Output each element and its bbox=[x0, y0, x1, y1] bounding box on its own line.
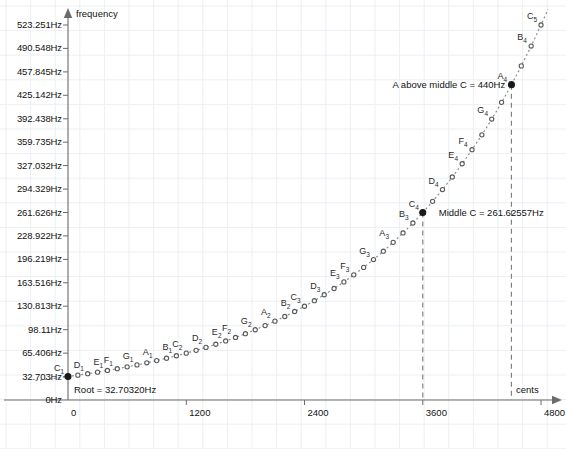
data-point[interactable] bbox=[480, 133, 484, 137]
data-point[interactable] bbox=[470, 148, 474, 152]
note-label: G4 bbox=[477, 105, 488, 117]
data-point[interactable] bbox=[283, 314, 287, 318]
data-point[interactable] bbox=[135, 363, 139, 367]
data-point[interactable] bbox=[490, 117, 494, 121]
data-point[interactable] bbox=[253, 328, 257, 332]
note-label: F4 bbox=[458, 136, 467, 148]
x-axis-tick-label: 3600 bbox=[426, 407, 447, 418]
note-label: C1 bbox=[54, 363, 64, 375]
data-point[interactable] bbox=[145, 361, 149, 365]
y-axis-tick-label: 490.548Hz bbox=[0, 42, 62, 53]
data-point[interactable] bbox=[312, 299, 316, 303]
frequency-cents-plot bbox=[0, 0, 566, 449]
x-axis-tick-label: 4800 bbox=[544, 407, 565, 418]
data-point[interactable] bbox=[440, 187, 444, 191]
data-point-highlighted[interactable] bbox=[420, 210, 426, 216]
data-point[interactable] bbox=[273, 319, 277, 323]
note-label: D2 bbox=[192, 333, 202, 345]
note-label: E4 bbox=[448, 150, 458, 162]
data-point[interactable] bbox=[115, 367, 119, 371]
y-axis-tick-label: 98.11Hz bbox=[0, 324, 62, 335]
data-point[interactable] bbox=[529, 44, 533, 48]
y-axis-tick-label: 196.219Hz bbox=[0, 253, 62, 264]
x-axis-arrow bbox=[552, 396, 562, 404]
note-label: D3 bbox=[310, 281, 320, 293]
data-point[interactable] bbox=[322, 293, 326, 297]
note-label: A1 bbox=[143, 347, 153, 359]
data-point[interactable] bbox=[450, 175, 454, 179]
data-point[interactable] bbox=[539, 23, 543, 27]
data-point[interactable] bbox=[342, 280, 346, 284]
note-label: D1 bbox=[74, 360, 84, 372]
data-point[interactable] bbox=[519, 64, 523, 68]
note-label: A3 bbox=[379, 228, 389, 240]
y-axis-tick-label: 228.922Hz bbox=[0, 230, 62, 241]
note-label: B3 bbox=[399, 209, 409, 221]
note-label: B2 bbox=[281, 298, 291, 310]
data-point[interactable] bbox=[184, 351, 188, 355]
data-point[interactable] bbox=[411, 221, 415, 225]
y-axis-tick-label: 457.845Hz bbox=[0, 66, 62, 77]
y-axis-tick-label: 392.438Hz bbox=[0, 113, 62, 124]
data-point[interactable] bbox=[460, 162, 464, 166]
data-point[interactable] bbox=[194, 348, 198, 352]
data-point[interactable] bbox=[362, 265, 366, 269]
y-axis-arrow bbox=[64, 8, 72, 18]
root-annotation: Root = 32.70320Hz bbox=[74, 384, 156, 395]
y-axis-tick-label: 261.626Hz bbox=[0, 207, 62, 218]
grid-group bbox=[0, 0, 566, 449]
note-label: F1 bbox=[104, 355, 113, 367]
data-point[interactable] bbox=[155, 358, 159, 362]
note-label: E1 bbox=[94, 357, 104, 369]
note-label: E2 bbox=[212, 327, 222, 339]
y-axis-tick-label: 65.406Hz bbox=[0, 347, 62, 358]
data-point[interactable] bbox=[95, 370, 99, 374]
data-point[interactable] bbox=[233, 335, 237, 339]
x-axis-title: cents bbox=[516, 384, 539, 395]
y-axis-title: frequency bbox=[76, 8, 118, 19]
data-point[interactable] bbox=[105, 368, 109, 372]
note-label: G1 bbox=[123, 351, 134, 363]
data-point[interactable] bbox=[214, 342, 218, 346]
data-point[interactable] bbox=[352, 273, 356, 277]
note-label: G2 bbox=[241, 316, 252, 328]
y-axis-tick-label: 163.516Hz bbox=[0, 277, 62, 288]
note-label: C4 bbox=[409, 199, 419, 211]
data-point[interactable] bbox=[164, 356, 168, 360]
data-point[interactable] bbox=[204, 345, 208, 349]
data-point[interactable] bbox=[224, 339, 228, 343]
data-point[interactable] bbox=[499, 100, 503, 104]
note-label: C5 bbox=[527, 11, 537, 23]
data-point[interactable] bbox=[86, 372, 90, 376]
data-point[interactable] bbox=[391, 240, 395, 244]
data-point[interactable] bbox=[401, 231, 405, 235]
y-axis-tick-label: 0Hz bbox=[0, 394, 62, 405]
note-label: D4 bbox=[428, 176, 438, 188]
y-axis-tick-label: 32.703Hz bbox=[0, 371, 62, 382]
y-axis-tick-label: 294.329Hz bbox=[0, 183, 62, 194]
data-point[interactable] bbox=[381, 249, 385, 253]
data-point[interactable] bbox=[243, 332, 247, 336]
note-label: F3 bbox=[340, 261, 349, 273]
x-axis-tick-label: 2400 bbox=[308, 407, 329, 418]
a440-annotation: A above middle C = 440Hz bbox=[392, 79, 505, 90]
y-axis-tick-label: 523.251Hz bbox=[0, 19, 62, 30]
data-point[interactable] bbox=[125, 365, 129, 369]
data-point-highlighted[interactable] bbox=[65, 374, 71, 380]
note-label: E3 bbox=[330, 268, 340, 280]
middle-c-annotation: Middle C = 261.62557Hz bbox=[439, 207, 544, 218]
data-point-highlighted[interactable] bbox=[508, 82, 514, 88]
data-point[interactable] bbox=[371, 257, 375, 261]
data-point[interactable] bbox=[293, 309, 297, 313]
note-label: C2 bbox=[172, 339, 182, 351]
data-point[interactable] bbox=[431, 199, 435, 203]
note-label: G3 bbox=[359, 246, 370, 258]
data-point[interactable] bbox=[263, 323, 267, 327]
data-point[interactable] bbox=[76, 373, 80, 377]
chart-canvas: 0Hz32.703Hz65.406Hz98.11Hz130.813Hz163.5… bbox=[0, 0, 566, 449]
data-point[interactable] bbox=[332, 286, 336, 290]
y-axis-tick-label: 327.032Hz bbox=[0, 160, 62, 171]
data-point[interactable] bbox=[174, 354, 178, 358]
data-point[interactable] bbox=[302, 304, 306, 308]
note-label: B1 bbox=[163, 342, 173, 354]
